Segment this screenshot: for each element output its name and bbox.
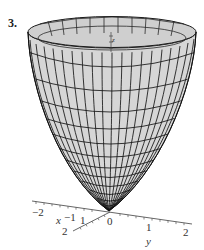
- y-tick-0: 0: [107, 215, 113, 227]
- z-axis-label: z: [111, 36, 115, 44]
- figure-number: 3.: [8, 16, 17, 30]
- y-tick-2: 2: [183, 226, 189, 238]
- y-tick-1: 1: [146, 221, 152, 233]
- x-tick-minus-1: −1: [64, 211, 76, 223]
- x-tick-2: 2: [62, 225, 68, 237]
- paraboloid-surface: [28, 17, 196, 212]
- paraboloid-figure: 3.: [0, 0, 204, 250]
- y-tick-minus-2: −2: [32, 206, 44, 218]
- x-axis: [73, 212, 110, 231]
- y-axis-label: y: [145, 235, 151, 247]
- x-tick-1: 1: [80, 214, 86, 226]
- x-axis-label: x: [55, 214, 61, 226]
